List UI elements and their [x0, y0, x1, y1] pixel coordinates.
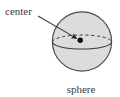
- sphere-caption: sphere: [67, 83, 96, 95]
- sphere-diagram-canvas: center sphere: [0, 0, 120, 97]
- sphere-figure: center sphere: [0, 0, 120, 97]
- center-label: center: [5, 5, 32, 17]
- center-point-dot: [78, 38, 83, 43]
